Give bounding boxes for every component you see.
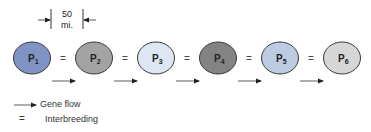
interbreeding-equals-icon: = (184, 53, 190, 64)
legend-gene-flow-label: Gene flow (40, 99, 81, 109)
population-4: P4 (200, 42, 237, 74)
interbreeding-equals-icon: = (308, 53, 314, 64)
population-6: P6 (324, 42, 361, 74)
legend-equals-icon: = (19, 113, 45, 124)
scale-value: 50 (62, 9, 72, 19)
population-2: P2 (76, 42, 113, 74)
scale-unit: mi. (61, 20, 73, 30)
population-3: P3 (138, 42, 175, 74)
population-5: P5 (262, 42, 299, 74)
legend-interbreeding: = Interbreeding (19, 113, 98, 124)
interbreeding-equals-icon: = (122, 53, 128, 64)
legend-interbreeding-label: Interbreeding (45, 114, 98, 124)
scale-marker: 50 mi. (38, 9, 96, 30)
legend-gene-flow: Gene flow (40, 99, 81, 109)
population-1: P1 (14, 42, 51, 74)
interbreeding-equals-icon: = (60, 53, 66, 64)
interbreeding-equals-icon: = (246, 53, 252, 64)
